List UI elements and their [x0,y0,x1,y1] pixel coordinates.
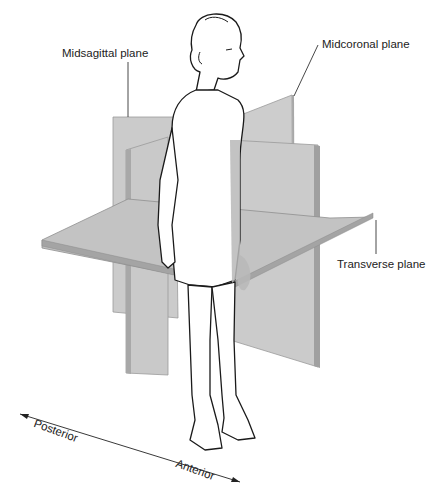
transverse-plane-label: Transverse plane [337,259,425,271]
anatomical-planes-diagram: Midsagittal plane Midcoronal plane Trans… [0,0,429,491]
midcoronal-pointer [294,45,318,96]
midcoronal-plane-label: Midcoronal plane [322,39,410,51]
human-figure [158,14,255,450]
arrowhead-anterior-icon [231,477,240,482]
arrowhead-posterior-icon [20,414,29,419]
planes-illustration [0,0,429,491]
midsagittal-plane-label: Midsagittal plane [62,48,148,60]
